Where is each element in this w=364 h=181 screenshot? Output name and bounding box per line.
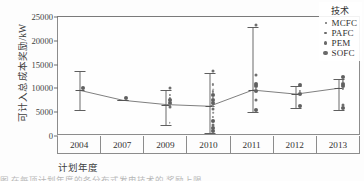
x-axis-category-2007[interactable]: 2007 [101,136,144,153]
whisker-line [339,79,340,110]
y-tick-mark [54,64,58,65]
data-point-SOFC-2012 [298,92,302,96]
x-axis-category-2012[interactable]: 2012 [274,136,317,153]
data-point-PEM-2010 [212,107,215,110]
legend-dot-icon [323,41,329,45]
legend-dot-icon [323,51,329,55]
data-point-PEM-2011 [255,98,258,101]
legend-label: SOFC [332,48,355,58]
data-point-SOFC-2007 [124,96,128,100]
x-axis-category-2011[interactable]: 2011 [231,136,274,153]
data-point-SOFC-2004 [81,86,85,90]
x-axis-category-2004[interactable]: 2004 [58,136,101,153]
whisker-line [166,90,167,124]
x-axis-category-cells: 2004200720092010201120122013 [57,136,360,154]
figure-container: 可计入总成本奖励/kW 0500010000150002000025000 20… [0,0,364,181]
legend: 技术 MCFCPAFCPEMSOFC [319,2,362,61]
y-tick-mark [54,17,58,18]
legend-dot-icon [323,32,329,35]
mean-marker [118,100,127,101]
data-point-PEM-2010 [212,69,215,72]
legend-title: 技术 [323,4,357,17]
legend-item-PAFC[interactable]: PAFC [323,28,357,38]
data-point-SOFC-2012 [298,104,302,108]
whisker-cap-upper [291,86,302,87]
x-axis-category-2009[interactable]: 2009 [144,136,187,153]
x-axis-title: 计划年度 [58,160,98,174]
y-axis-title: 可计入总成本奖励/kW [15,3,29,143]
whisker-line [209,73,210,133]
data-point-SOFC-2011 [254,108,258,112]
whisker-cap-lower [291,108,302,109]
legend-label: PEM [332,38,351,48]
data-point-SOFC-2011 [254,89,258,93]
mean-marker [75,90,84,91]
whisker-cap-lower [204,133,215,134]
whisker-cap-upper [74,71,85,72]
whisker-cap-lower [74,110,85,111]
legend-item-MCFC[interactable]: MCFC [323,18,357,28]
data-point-PEM-2009 [168,106,171,109]
whisker-line [252,27,253,111]
data-point-SOFC-2013 [341,75,345,79]
plot-inner [58,17,359,134]
data-point-SOFC-2010 [211,129,215,133]
data-point-MCFC-2010 [212,112,214,114]
whisker-cap-upper [247,27,258,28]
data-point-SOFC-2013 [341,106,345,110]
data-point-MCFC-2009 [169,122,171,124]
whisker-cap-upper [204,73,215,74]
legend-label: PAFC [332,28,354,38]
whisker-line [296,86,297,108]
whisker-cap-lower [161,125,172,126]
y-tick-mark [54,40,58,41]
figure-caption: 图 在每项计划年度的各分布式发电技术的 奖励上限 [0,173,364,181]
whisker-cap-lower [247,112,258,113]
data-point-PEM-2011 [255,24,258,27]
legend-item-SOFC[interactable]: SOFC [323,48,357,58]
y-tick-mark [54,88,58,89]
whisker-cap-upper [161,90,172,91]
x-axis-category-2010[interactable]: 2010 [187,136,230,153]
plot-area: 0500010000150002000025000 [57,16,360,135]
data-point-PEM-2011 [255,74,258,77]
x-axis-category-2013[interactable]: 2013 [317,136,359,153]
legend-dot-icon [323,22,329,24]
legend-item-PEM[interactable]: PEM [323,38,357,48]
data-point-PEM-2009 [168,87,171,90]
legend-entries: MCFCPAFCPEMSOFC [323,18,357,58]
whisker-cap-lower [334,110,345,111]
y-tick-mark [54,112,58,113]
legend-label: MCFC [332,18,357,28]
data-point-SOFC-2012 [298,83,302,87]
